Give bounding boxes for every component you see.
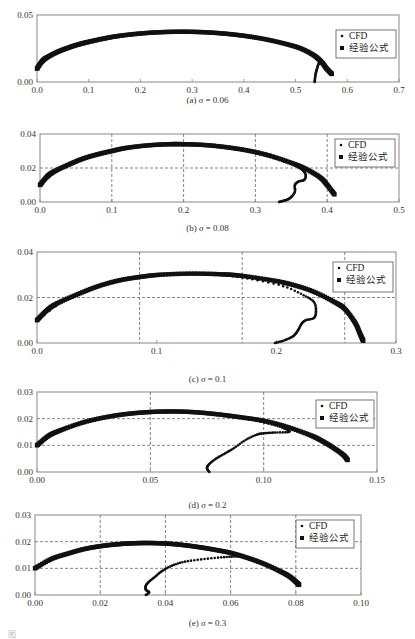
x-tick-label: 0.08 — [288, 598, 304, 608]
y-tick-label: 0.00 — [15, 590, 31, 600]
x-tick-label: 0.06 — [223, 598, 239, 608]
chart-e-caption: (e) σ = 0.3 — [0, 618, 415, 628]
x-tick-label: 0.04 — [158, 598, 174, 608]
legend-dot-marker — [301, 525, 304, 528]
legend: CFD经验公式 — [296, 520, 354, 548]
x-tick-label: 0.10 — [353, 598, 369, 608]
y-tick-label: 0.02 — [15, 537, 31, 547]
y-tick-label: 0.03 — [15, 510, 31, 520]
y-tick-label: 0.01 — [15, 563, 31, 573]
legend-label: 经验公式 — [309, 532, 349, 543]
legend-square-marker — [300, 536, 304, 540]
x-tick-label: 0.02 — [92, 598, 108, 608]
figure-label-fragment: 图 — [8, 628, 16, 639]
legend-label: CFD — [309, 521, 328, 531]
